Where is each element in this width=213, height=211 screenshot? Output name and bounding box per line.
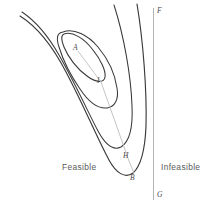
point-label-H: H — [123, 152, 129, 160]
point-label-G: G — [157, 191, 163, 199]
point-label-I: I — [97, 77, 100, 85]
point-label-A: A — [73, 44, 78, 52]
path-segment-i-h — [101, 82, 129, 161]
contour-diagram — [0, 0, 213, 211]
point-label-F: F — [157, 7, 162, 15]
contour-inner-ellipse — [62, 33, 105, 81]
contour-3 — [22, 5, 132, 148]
region-label-feasible: Feasible — [62, 163, 96, 171]
path-segment-h-b — [129, 161, 134, 173]
contour-4 — [20, 4, 146, 175]
region-label-infeasible: Infeasible — [161, 163, 200, 171]
point-label-B: B — [130, 174, 135, 182]
